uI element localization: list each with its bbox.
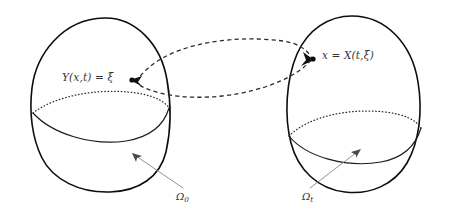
reference-domain-label: Ω0 — [176, 192, 189, 203]
current-domain-equator-front — [289, 128, 421, 164]
reference-domain-equator-back — [33, 91, 169, 113]
reference-point-label: Y(x,t) = ξ — [62, 72, 113, 83]
right-domain-pointer-group — [310, 149, 361, 188]
right-domain-pointer-line — [310, 152, 357, 188]
current-point-label: x = X(t,ξ) — [322, 50, 374, 61]
left-domain-pointer-group — [132, 153, 183, 188]
reference-domain-subscript: 0 — [184, 195, 189, 204]
current-domain-subscript: t — [310, 195, 313, 204]
right-domain-group — [287, 16, 421, 193]
current-domain-equator-back — [289, 111, 421, 136]
right-domain-pointer-arrowhead — [351, 149, 361, 158]
reference-domain-equator-front — [33, 108, 169, 142]
reference-domain-blob-outline — [31, 18, 170, 192]
flow-arc-forward-arrowhead — [301, 52, 314, 66]
left-domain-group — [31, 18, 170, 192]
flow-arc-inverse — [139, 60, 311, 97]
figure-canvas: Y(x,t) = ξ x = X(t,ξ) Ω0 Ωt — [0, 0, 456, 220]
left-domain-pointer-arrowhead — [132, 153, 142, 162]
current-domain-label: Ωt — [302, 192, 313, 203]
diagram-svg — [0, 0, 456, 220]
current-domain-blob-outline — [287, 16, 420, 193]
flow-map-arcs — [130, 39, 314, 97]
